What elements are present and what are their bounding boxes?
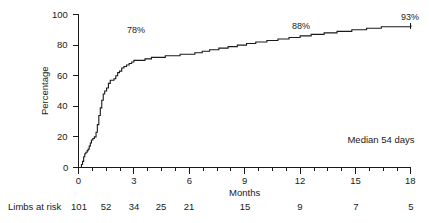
at-risk-value-8: 5 [408, 202, 413, 212]
at-risk-value-4: 21 [184, 202, 195, 212]
median-note: Median 54 days [347, 135, 414, 145]
x-axis-major-ticks [79, 168, 411, 174]
at-risk-value-2: 34 [129, 202, 140, 212]
x-tick-label-0: 0 [76, 176, 81, 186]
at-risk-value-1: 52 [101, 202, 112, 212]
annotation-93-percent: 93% [401, 13, 419, 22]
annotation-78-percent: 78% [127, 26, 145, 35]
y-tick-label-60: 60 [57, 71, 68, 81]
chart-plot-area [0, 0, 429, 223]
x-tick-label-12: 12 [295, 176, 306, 186]
at-risk-value-0: 101 [71, 202, 87, 212]
x-tick-label-3: 3 [131, 176, 136, 186]
x-tick-label-9: 9 [242, 176, 247, 186]
y-axis-ticks [73, 15, 79, 168]
y-tick-label-40: 40 [57, 101, 68, 111]
at-risk-value-5: 15 [240, 202, 251, 212]
at-risk-value-3: 25 [156, 202, 167, 212]
x-tick-label-15: 15 [350, 176, 361, 186]
at-risk-value-6: 9 [297, 202, 302, 212]
y-tick-label-0: 0 [63, 163, 68, 173]
x-tick-label-6: 6 [187, 176, 192, 186]
y-tick-label-80: 80 [57, 40, 68, 50]
y-axis-title: Percentage [40, 66, 50, 115]
at-risk-row-label: Limbs at risk [8, 202, 61, 212]
annotation-88-percent: 88% [292, 22, 310, 31]
y-tick-label-20: 20 [57, 132, 68, 142]
cumulative-percentage-curve [79, 25, 411, 167]
x-axis-title: Months [229, 188, 260, 198]
x-tick-label-18: 18 [405, 176, 416, 186]
at-risk-value-7: 7 [353, 202, 358, 212]
y-tick-label-100: 100 [52, 10, 68, 20]
chart-figure: 100 80 60 40 20 0 Percentage 0 3 6 9 12 … [0, 0, 429, 223]
